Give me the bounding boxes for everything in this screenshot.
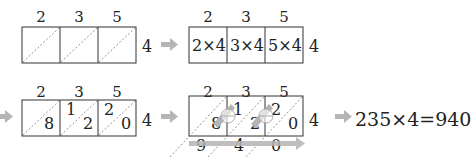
- step3-diagonals: [23, 101, 135, 135]
- step4-diagonals-extended: [170, 96, 303, 157]
- plus-circle-icon: [221, 109, 235, 123]
- arrow-icon: [0, 110, 13, 123]
- step1-diagonals: [23, 28, 135, 62]
- arrow-icon: [161, 110, 178, 123]
- step4-grid: [189, 96, 303, 136]
- step2-grid: [189, 27, 303, 63]
- arrow-icon: [335, 110, 352, 123]
- arrow-icon: [161, 38, 178, 51]
- result-arrow-icon: [189, 137, 305, 150]
- plus-circle-icon: [259, 109, 273, 123]
